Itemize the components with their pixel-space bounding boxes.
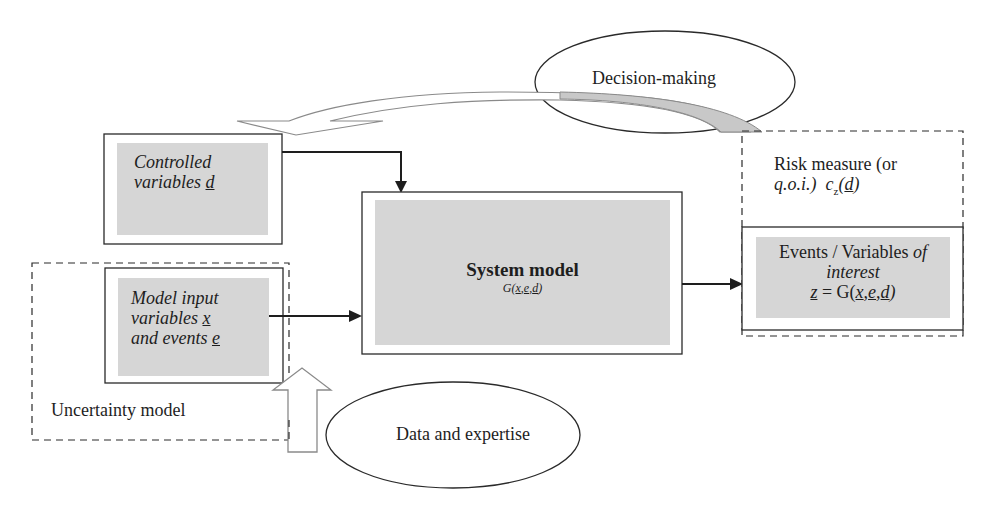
model-input-label: Model input variables x and events e — [131, 288, 220, 348]
controlled-line2: variables d — [134, 172, 215, 192]
events-label: Events / Variables of interest z = G(x,e… — [756, 242, 950, 302]
arrow-controlled-to-system — [282, 152, 401, 184]
risk-measure-label: Risk measure (or q.o.i.) cz(d) — [774, 154, 897, 197]
feedback-curved-arrow-shade — [560, 92, 762, 132]
uncertainty-model-label: Uncertainty model — [51, 400, 185, 420]
controlled-variables-label: Controlled variables d — [134, 152, 215, 192]
arrowhead-down-icon — [395, 181, 407, 193]
decision-making-label: Decision-making — [592, 68, 716, 88]
data-expertise-label: Data and expertise — [396, 424, 530, 444]
feedback-curved-arrow — [237, 92, 750, 135]
arrowhead-right-icon — [349, 310, 362, 322]
system-model-formula: G(x,e,d) — [375, 282, 670, 295]
controlled-line1: Controlled — [134, 152, 215, 172]
system-model-label: System model G(x,e,d) — [375, 259, 670, 296]
system-model-title: System model — [375, 259, 670, 280]
arrowhead-right-icon — [730, 278, 743, 290]
